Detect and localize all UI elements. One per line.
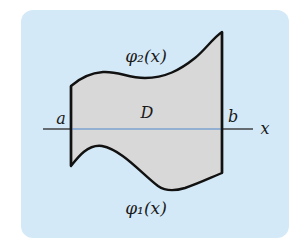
- upper-curve-label: φ₂(x): [125, 46, 167, 66]
- lower-curve-label: φ₁(x): [125, 198, 167, 218]
- x-axis-label: x: [260, 119, 269, 138]
- region-diagram: φ₂(x) D a b x φ₁(x): [0, 0, 304, 247]
- right-bound-label: b: [228, 107, 238, 126]
- region-label: D: [140, 103, 154, 122]
- diagram-canvas: φ₂(x) D a b x φ₁(x): [0, 0, 304, 247]
- left-bound-label: a: [56, 109, 66, 128]
